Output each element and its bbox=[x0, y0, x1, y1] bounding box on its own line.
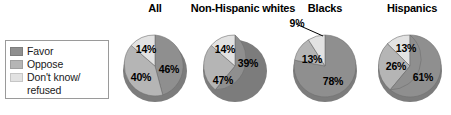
pie-value-all-favor: 46% bbox=[159, 63, 179, 75]
pie-value-blacks-favor: 78% bbox=[323, 75, 343, 87]
pie-chart-all: 46% 40% 14% bbox=[121, 32, 189, 104]
legend-item-favor: Favor bbox=[10, 45, 108, 58]
pie-value-hispanics-favor: 61% bbox=[413, 71, 433, 83]
legend-swatch-favor bbox=[10, 47, 23, 56]
legend-swatch-dont-know bbox=[10, 73, 23, 82]
pie-value-whites-favor: 39% bbox=[238, 57, 258, 69]
legend-swatch-oppose bbox=[10, 60, 23, 69]
pie-value-hispanics-dontknow: 13% bbox=[396, 42, 416, 54]
legend-item-oppose: Oppose bbox=[10, 58, 108, 71]
chart-title-all: All bbox=[148, 2, 161, 14]
pie-chart-non-hispanic-whites: 39% 47% 14% bbox=[201, 32, 269, 104]
pie-value-blacks-oppose: 13% bbox=[302, 53, 322, 65]
pie-chart-hispanics: 61% 26% 13% bbox=[376, 32, 444, 104]
pie-value-all-oppose: 40% bbox=[131, 71, 151, 83]
legend-label-oppose: Oppose bbox=[27, 58, 63, 71]
chart-title-blacks: Blacks bbox=[308, 2, 342, 14]
legend-label-dont-know: Don't know/ refused bbox=[27, 71, 80, 97]
pie-value-whites-oppose: 47% bbox=[213, 74, 233, 86]
pie-value-whites-dontknow: 14% bbox=[215, 43, 235, 55]
legend-label-favor: Favor bbox=[27, 45, 53, 58]
pie-value-hispanics-oppose: 26% bbox=[386, 60, 406, 72]
pie-svg-blacks bbox=[291, 32, 359, 104]
pie-value-blacks-dontknow: 9% bbox=[290, 17, 305, 29]
legend-item-dont-know: Don't know/ refused bbox=[10, 71, 108, 97]
chart-title-non-hispanic-whites: Non-Hispanic whites bbox=[191, 2, 295, 14]
pie-chart-blacks: 78% 13% bbox=[291, 32, 359, 104]
pie-chart-figure: Favor Oppose Don't know/ refused All Non… bbox=[0, 0, 451, 115]
chart-title-hispanics: Hispanics bbox=[387, 2, 437, 14]
chart-legend: Favor Oppose Don't know/ refused bbox=[5, 40, 109, 99]
pie-value-all-dontknow: 14% bbox=[136, 43, 156, 55]
